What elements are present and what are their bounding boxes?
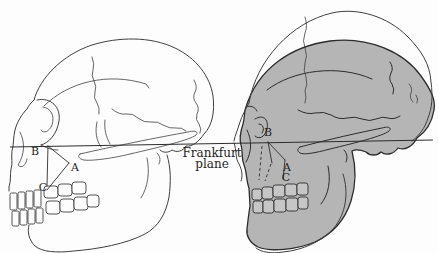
left-skull-coronal-suture (92, 57, 99, 114)
left-skull-cranium-outline (34, 39, 214, 152)
left-skull-squamosal-suture (112, 109, 186, 131)
skull-comparison-diagram: B A C (0, 0, 438, 253)
left-skull-ramus-front (141, 158, 148, 198)
left-skull-orbit (37, 99, 59, 145)
left-skull-label-c: C (39, 181, 47, 194)
left-skull-teeth (10, 182, 99, 226)
left-skull-orbit-inner (41, 107, 53, 132)
right-skull-label-c: C (282, 171, 290, 184)
frankfurt-plane-label-line2: plane (195, 157, 229, 171)
left-skull-sphenoid-lines (96, 120, 110, 147)
left-skull-measurement-lines (47, 146, 69, 190)
left-skull-label-a: A (70, 161, 80, 174)
right-skull: B A C (234, 11, 434, 253)
right-skull-label-b: B (264, 126, 272, 139)
right-skull-gray-body (240, 40, 434, 250)
left-skull-condyle (157, 153, 160, 164)
anatomy-figure: B A C (0, 0, 438, 253)
left-skull-lambdoid-suture (194, 80, 201, 133)
left-skull-nasal-aperture (18, 132, 27, 167)
